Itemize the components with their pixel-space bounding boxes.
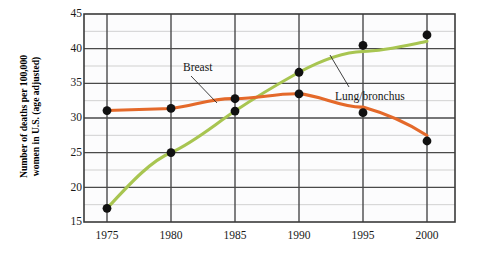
data-point — [231, 107, 240, 116]
data-point — [423, 31, 432, 40]
annotation-breast: Breast — [183, 61, 212, 73]
data-point — [295, 68, 304, 77]
chart-figure: Number of deaths per 100,000 women in U.… — [0, 0, 479, 261]
data-point — [103, 106, 112, 115]
data-point — [167, 148, 176, 157]
plot-area — [0, 0, 479, 261]
data-point — [103, 204, 112, 213]
data-point — [167, 104, 176, 113]
data-point — [295, 89, 304, 98]
data-point — [423, 137, 432, 146]
data-point — [359, 41, 368, 50]
annotation-lung-bronchus: Lung/bronchus — [335, 90, 405, 102]
data-point — [359, 108, 368, 117]
data-point — [231, 94, 240, 103]
